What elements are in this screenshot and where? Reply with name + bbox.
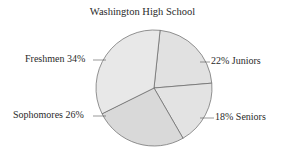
label-freshmen: Freshmen 34%	[25, 53, 85, 64]
label-seniors: 18% Seniors	[215, 111, 266, 122]
label-sophomores: Sophomores 26%	[13, 109, 84, 120]
pie-slice-juniors	[154, 30, 212, 88]
pie-chart	[0, 0, 285, 154]
label-juniors: 22% Juniors	[211, 55, 261, 66]
